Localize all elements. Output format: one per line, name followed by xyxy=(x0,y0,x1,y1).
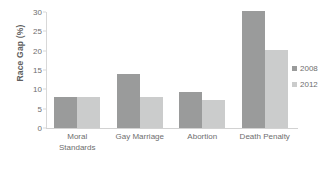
x-axis-line xyxy=(46,128,298,129)
bar-2008 xyxy=(242,11,265,128)
bar-group xyxy=(117,12,163,128)
legend-swatch-icon xyxy=(292,66,297,71)
y-tick-mark xyxy=(43,12,46,13)
y-tick-mark xyxy=(43,128,46,129)
bar-2012 xyxy=(265,50,288,128)
y-tick-mark xyxy=(43,89,46,90)
y-tick-mark xyxy=(43,70,46,71)
x-axis-label: Gay Marriage xyxy=(109,132,172,143)
bar-2008 xyxy=(179,92,202,128)
y-tick-mark xyxy=(43,31,46,32)
x-axis-label: Death Penalty xyxy=(234,132,297,143)
bar-2008 xyxy=(54,97,77,128)
y-tick-label: 5 xyxy=(38,104,42,113)
legend-label: 2012 xyxy=(300,80,318,89)
bar-2008 xyxy=(117,74,140,128)
y-tick-label: 20 xyxy=(33,46,42,55)
bar-group xyxy=(54,12,100,128)
bar-group xyxy=(179,12,225,128)
bar-group xyxy=(242,12,288,128)
legend-item: 2012 xyxy=(292,80,318,89)
y-tick-label: 15 xyxy=(33,66,42,75)
bar-chart: Race Gap (%) 051015202530 20082012 Moral… xyxy=(0,0,331,169)
bar-2012 xyxy=(77,97,100,128)
x-axis-label: Abortion xyxy=(171,132,234,143)
plot-area: 051015202530 xyxy=(46,12,296,128)
y-tick-mark xyxy=(43,50,46,51)
y-axis-title: Race Gap (%) xyxy=(15,5,25,101)
legend-label: 2008 xyxy=(300,64,318,73)
bar-2012 xyxy=(202,100,225,128)
y-tick-label: 30 xyxy=(33,8,42,17)
legend-item: 2008 xyxy=(292,64,318,73)
bar-2012 xyxy=(140,97,163,128)
y-tick-label: 0 xyxy=(38,124,42,133)
legend-swatch-icon xyxy=(292,82,297,87)
y-tick-label: 10 xyxy=(33,85,42,94)
y-tick-mark xyxy=(43,108,46,109)
chart-legend: 20082012 xyxy=(292,64,318,96)
y-tick-label: 25 xyxy=(33,27,42,36)
x-axis-label: Moral Standards xyxy=(46,132,109,153)
